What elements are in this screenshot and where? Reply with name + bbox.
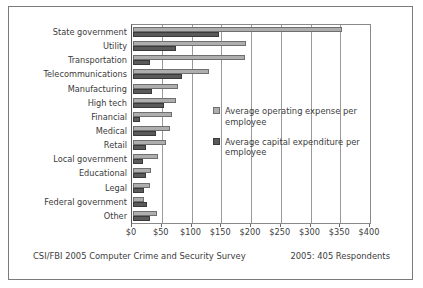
x-tick-label: $350 [329,228,350,236]
category-label: Educational [79,169,127,177]
chart-legend: Average operating expense per employeeAv… [213,106,365,167]
bar-capital-expenditure [133,145,146,150]
chart-figure: State governmentUtilityTransportationTel… [8,6,413,280]
chart-row: Transportation [132,53,370,67]
bar-capital-expenditure [133,74,182,79]
category-label: State government [53,28,127,36]
bar-capital-expenditure [133,159,143,164]
bar-capital-expenditure [133,188,144,193]
x-tick-label: $300 [299,228,320,236]
chart-row: State government [132,25,370,39]
x-tick-label: $400 [359,228,380,236]
category-label: Legal [105,184,127,192]
legend-label: Average operating expense per employee [225,106,365,128]
chart-row: Educational [132,166,370,180]
bar-capital-expenditure [133,216,150,221]
bar-capital-expenditure [133,32,219,37]
category-label: Other [104,212,127,220]
chart-footer: CSI/FBI 2005 Computer Crime and Security… [33,252,398,260]
bar-capital-expenditure [133,202,147,207]
x-tick-label: $50 [153,228,169,236]
category-label: Telecommunications [43,70,127,78]
legend-label: Average capital expenditure per employee [225,137,365,159]
category-label: Utility [103,42,127,50]
category-label: High tech [88,99,127,107]
legend-entry: Average operating expense per employee [213,106,365,128]
footer-respondents: 2005: 405 Respondents [290,252,398,260]
legend-entry: Average capital expenditure per employee [213,137,365,159]
legend-swatch-capital-expenditure [213,138,220,145]
bar-capital-expenditure [133,117,140,122]
category-label: Medical [96,127,127,135]
chart-row: Federal government [132,195,370,209]
chart-row: Other [132,209,370,223]
x-tick-label: $0 [126,228,136,236]
footer-source: CSI/FBI 2005 Computer Crime and Security… [33,252,246,260]
x-axis: $0$50$100$150$200$250$300$350$400 [131,224,371,240]
category-label: Federal government [44,198,127,206]
bar-capital-expenditure [133,89,152,94]
bar-capital-expenditure [133,46,176,51]
bar-capital-expenditure [133,173,146,178]
bar-capital-expenditure [133,103,164,108]
legend-swatch-operating-expense [213,107,220,114]
category-label: Local government [53,155,127,163]
bar-capital-expenditure [133,60,150,65]
x-tick-label: $250 [269,228,290,236]
bar-operating-expense [133,55,245,60]
category-label: Retail [104,141,127,149]
x-tick-label: $150 [210,228,231,236]
x-tick-label: $100 [180,228,201,236]
chart-row: Legal [132,181,370,195]
category-label: Manufacturing [68,85,127,93]
category-label: Transportation [68,56,127,64]
chart-row: Telecommunications [132,67,370,81]
chart-row: Manufacturing [132,82,370,96]
x-tick-label: $200 [240,228,261,236]
chart-row: Utility [132,39,370,53]
category-label: Financial [91,113,127,121]
bar-capital-expenditure [133,131,156,136]
